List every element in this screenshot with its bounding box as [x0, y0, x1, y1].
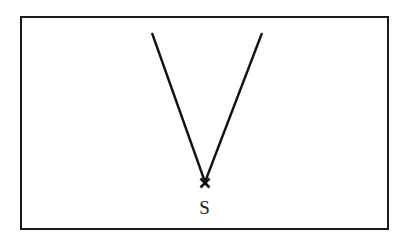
left-ray [152, 33, 205, 182]
right-ray [205, 33, 262, 182]
diagram-canvas: S [0, 0, 407, 247]
source-point-label: S [199, 197, 210, 218]
